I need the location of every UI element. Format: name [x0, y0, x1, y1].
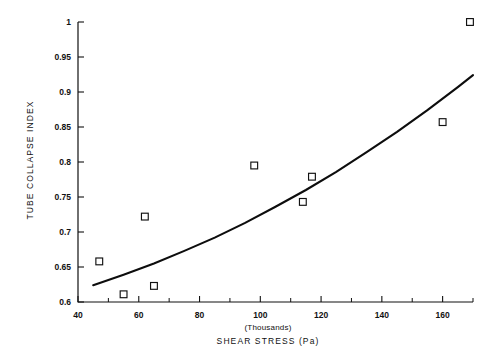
y-tick-label: 0.75: [54, 192, 71, 202]
x-tick-label: 60: [134, 310, 144, 320]
y-tick-label: 0.85: [54, 122, 71, 132]
y-tick-label: 0.6: [59, 297, 71, 307]
data-point-marker: [96, 258, 103, 265]
x-tick-label: 160: [436, 310, 450, 320]
x-tick-label: 40: [73, 310, 83, 320]
y-axis-label: TUBE COLLAPSE INDEX: [25, 100, 35, 219]
x-tick-label: 140: [375, 310, 389, 320]
y-tick-label: 0.95: [54, 52, 71, 62]
y-tick-label: 0.8: [59, 157, 71, 167]
chart-container: 406080100120140160 0.60.650.70.750.80.85…: [0, 0, 489, 356]
x-tick-label: 80: [195, 310, 205, 320]
scatter-plot: 406080100120140160 0.60.650.70.750.80.85…: [0, 0, 489, 356]
data-point-marker: [467, 19, 474, 26]
x-axis-note: (Thousands): [244, 323, 291, 332]
y-tick-label: 0.9: [59, 87, 71, 97]
y-tick-label: 0.65: [54, 262, 71, 272]
x-tick-label: 120: [314, 310, 328, 320]
data-point-marker: [309, 173, 316, 180]
data-point-marker: [120, 291, 127, 298]
x-tick-label: 100: [253, 310, 267, 320]
data-point-marker: [439, 119, 446, 126]
data-point-marker: [151, 283, 158, 290]
y-tick-label: 1: [66, 17, 71, 27]
x-axis-label: SHEAR STRESS (Pa): [217, 336, 320, 346]
data-point-marker: [251, 162, 258, 169]
data-point-marker: [141, 213, 148, 220]
data-point-marker: [299, 199, 306, 206]
y-tick-label: 0.7: [59, 227, 71, 237]
